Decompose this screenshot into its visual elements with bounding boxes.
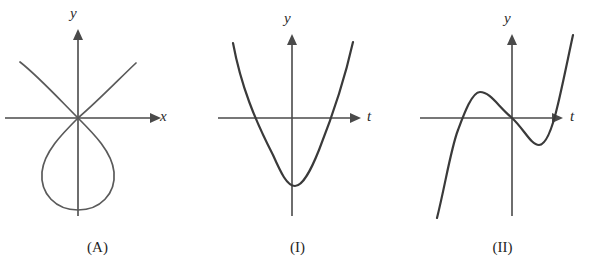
t-axis-ii <box>420 113 563 123</box>
curve-cubic <box>437 35 573 218</box>
caption-panel-i: (I) <box>195 240 400 255</box>
x-axis-label-a: x <box>160 109 167 124</box>
y-axis-label-i: y <box>284 11 291 26</box>
y-axis-i <box>287 34 297 216</box>
t-axis-i <box>218 113 361 123</box>
figure-root: x y (A) t y (I) <box>0 0 605 271</box>
caption-panel-a: (A) <box>0 240 195 255</box>
y-axis-ii <box>507 34 517 216</box>
y-axis-label-a: y <box>70 6 77 21</box>
curve-parabola <box>233 42 353 186</box>
t-axis-label-i: t <box>367 109 371 124</box>
panel-a: x y (A) <box>0 0 195 271</box>
caption-panel-ii: (II) <box>400 240 605 255</box>
panel-ii: t y (II) <box>400 0 605 271</box>
y-axis-label-ii: y <box>504 11 511 26</box>
curve-upper-left-branch <box>20 62 78 118</box>
curve-upper-right-branch <box>78 63 136 118</box>
panel-i: t y (I) <box>195 0 400 271</box>
t-axis-label-ii: t <box>570 109 574 124</box>
